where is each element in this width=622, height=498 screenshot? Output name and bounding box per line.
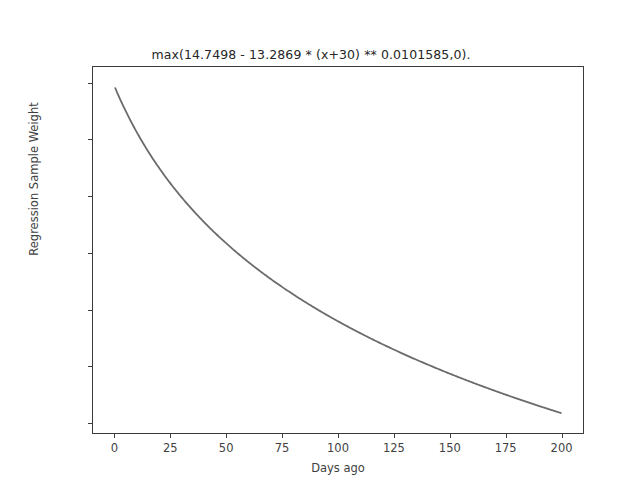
x-tick-label: 150: [420, 441, 480, 455]
chart-title-line-1: max(14.7498 - 13.2869 * (x+30) ** 0.0101…: [0, 46, 622, 63]
x-tick-label: 0: [84, 441, 144, 455]
y-tick-mark: [88, 366, 92, 367]
y-tick-mark: [88, 253, 92, 254]
y-tick-mark: [88, 83, 92, 84]
x-tick-mark: [226, 434, 227, 438]
y-tick-mark: [88, 139, 92, 140]
y-tick-mark: [88, 196, 92, 197]
y-tick-mark: [88, 310, 92, 311]
x-tick-mark: [282, 434, 283, 438]
x-tick-mark: [394, 434, 395, 438]
x-tick-label: 25: [140, 441, 200, 455]
x-tick-mark: [338, 434, 339, 438]
x-tick-label: 75: [252, 441, 312, 455]
x-tick-mark: [506, 434, 507, 438]
x-tick-label: 125: [364, 441, 424, 455]
y-axis-label: Regression Sample Weight: [27, 79, 41, 279]
plot-area: [92, 66, 584, 434]
x-tick-label: 175: [476, 441, 536, 455]
x-tick-label: 50: [196, 441, 256, 455]
x-tick-label: 200: [532, 441, 592, 455]
x-axis-label: Days ago: [92, 461, 584, 475]
regression-weight-curve: [93, 67, 583, 433]
y-tick-mark: [88, 423, 92, 424]
x-tick-label: 100: [308, 441, 368, 455]
curve-path: [115, 88, 560, 413]
x-tick-mark: [170, 434, 171, 438]
x-tick-mark: [562, 434, 563, 438]
x-tick-mark: [450, 434, 451, 438]
chart-figure: max(14.7498 - 13.2869 * (x+30) ** 0.0101…: [0, 0, 622, 498]
x-tick-mark: [114, 434, 115, 438]
